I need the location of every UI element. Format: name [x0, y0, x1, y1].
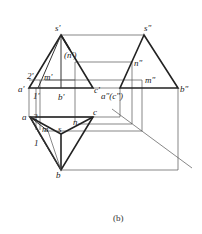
projection-diagram: s' (n') 2' m' a' 1' b' c' s" n" m" a"(c"… — [0, 0, 202, 234]
diagram-svg: s' (n') 2' m' a' 1' b' c' s" n" m" a"(c"… — [0, 0, 202, 234]
label-2-front: 2' — [27, 71, 35, 81]
label-1-top: 1 — [34, 138, 39, 148]
label-n-top: n — [73, 117, 78, 127]
label-n-side: n" — [134, 58, 143, 68]
label-b-top: b — [56, 170, 61, 180]
label-s-front: s' — [55, 23, 62, 33]
label-m-front: m' — [44, 72, 53, 82]
label-n-front: (n') — [64, 50, 76, 60]
label-m-side: m" — [145, 75, 155, 85]
label-s-side: s" — [144, 23, 152, 33]
label-2-top: 2 — [33, 112, 38, 122]
label-b-side: b" — [180, 84, 189, 94]
label-1-front: 1' — [33, 91, 41, 101]
label-c-front: c' — [94, 85, 101, 95]
label-a-top: a — [22, 112, 27, 122]
figure-caption: (b) — [113, 213, 124, 223]
label-m-top: m — [42, 124, 49, 134]
label-ac-side: a"(c") — [101, 91, 123, 101]
projection-lines — [29, 35, 192, 170]
label-b-front: b' — [58, 92, 66, 102]
top-view: a 2 c n m s 1 b — [22, 107, 97, 180]
label-c-top: c — [93, 107, 97, 117]
label-a-front: a' — [18, 84, 26, 94]
label-s-top: s — [58, 124, 62, 134]
